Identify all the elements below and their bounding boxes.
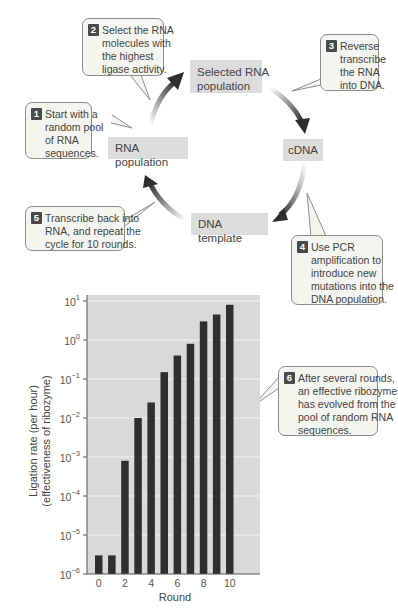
x-tick-label: 0 bbox=[89, 577, 109, 589]
y-tick-label: 10−1 bbox=[50, 372, 80, 386]
y-tick-label: 10−3 bbox=[50, 450, 80, 464]
x-tick-label: 6 bbox=[167, 577, 187, 589]
bar-round-1 bbox=[108, 555, 116, 574]
y-tick-label: 10−2 bbox=[50, 411, 80, 425]
x-tick-label: 8 bbox=[194, 577, 214, 589]
y-tick-label: 10−4 bbox=[50, 489, 80, 503]
bar-round-7 bbox=[187, 344, 195, 574]
y-tick-label: 101 bbox=[50, 294, 80, 308]
y-axis-title: Ligation rate (per hour) (effectiveness … bbox=[27, 361, 53, 521]
bar-round-2 bbox=[121, 461, 129, 574]
x-axis-title: Round bbox=[150, 591, 200, 603]
bar-round-8 bbox=[200, 321, 208, 574]
y-tick-label: 100 bbox=[50, 333, 80, 347]
x-tick-label: 2 bbox=[115, 577, 135, 589]
bar-round-0 bbox=[95, 555, 103, 574]
bar-round-10 bbox=[226, 305, 234, 574]
y-tick-label: 10−5 bbox=[50, 528, 80, 542]
x-tick-label: 4 bbox=[141, 577, 161, 589]
x-tick-label: 10 bbox=[220, 577, 240, 589]
bar-round-3 bbox=[134, 418, 142, 574]
bar-round-9 bbox=[213, 315, 221, 574]
bar-round-4 bbox=[147, 402, 155, 574]
bar-round-5 bbox=[161, 372, 169, 574]
bar-round-6 bbox=[174, 356, 182, 574]
y-tick-label: 10−6 bbox=[50, 567, 80, 581]
